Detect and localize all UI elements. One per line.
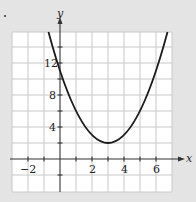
- x-axis-arrow-icon: [178, 157, 185, 162]
- y-tick-label: 12: [44, 58, 58, 69]
- x-axis-label: x: [186, 153, 192, 164]
- x-tick-label: 6: [153, 164, 160, 175]
- y-tick-label: 4: [49, 122, 56, 133]
- x-tick-label: 4: [121, 164, 128, 175]
- x-tick-label: 2: [89, 164, 96, 175]
- x-tick-label: −2: [20, 164, 36, 175]
- y-tick-label: 8: [49, 90, 56, 101]
- y-axis-label: y: [57, 8, 63, 19]
